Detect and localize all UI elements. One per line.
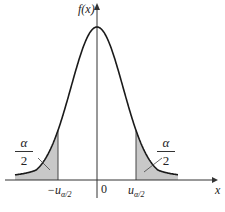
y-axis-label: f(x) (78, 3, 95, 15)
neg-critical-label: −uα/2 (47, 184, 72, 199)
normal-distribution-plot (0, 0, 225, 212)
pos-critical-label: uα/2 (128, 184, 144, 199)
origin-label: 0 (101, 183, 107, 195)
x-axis-label: x (215, 184, 220, 196)
y-axis-arrow-icon (94, 3, 100, 10)
left-tail-annotation: α2 (15, 136, 33, 167)
right-tail-annotation: α2 (157, 136, 175, 167)
